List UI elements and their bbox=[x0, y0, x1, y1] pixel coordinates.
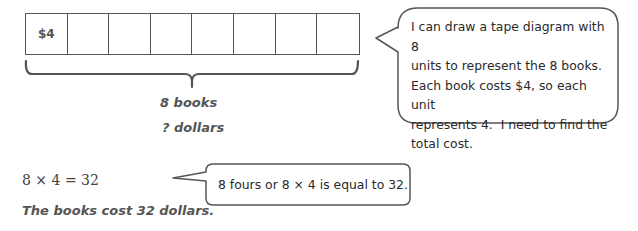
brace-label-books: 8 books bbox=[160, 95, 217, 110]
bubble-top-text: I can draw a tape diagram with 8 units t… bbox=[411, 17, 611, 154]
brace bbox=[26, 61, 358, 87]
bubble-top-line-4: represents 4. I need to find the bbox=[411, 115, 611, 135]
bubble-top-line-5: total cost. bbox=[411, 134, 611, 154]
conclusion-sentence: The books cost 32 dollars. bbox=[22, 203, 214, 218]
equation: 8 × 4 = 32 bbox=[22, 172, 99, 188]
bubble-top-line-3: Each book costs $4, so each unit bbox=[411, 76, 611, 115]
bubble-top-line-2: units to represent the 8 books. bbox=[411, 56, 611, 76]
bubble-bottom-text: 8 fours or 8 × 4 is equal to 32. bbox=[218, 175, 408, 195]
bubble-top-line-1: I can draw a tape diagram with 8 bbox=[411, 17, 611, 56]
unknown-label-dollars: ? dollars bbox=[162, 120, 224, 135]
